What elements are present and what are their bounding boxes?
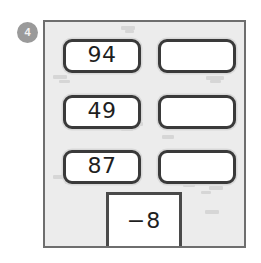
- paper-smudge: [205, 210, 219, 214]
- answer-box-row1-left[interactable]: 94: [63, 39, 141, 73]
- answer-box-row2-right[interactable]: [158, 95, 236, 129]
- answer-value-row1-left: 94: [88, 44, 117, 66]
- paper-smudge: [183, 184, 195, 187]
- paper-smudge: [201, 191, 211, 194]
- paper-smudge: [209, 186, 223, 190]
- total-box-value: −8: [127, 210, 161, 232]
- paper-smudge: [53, 75, 67, 79]
- answer-box-row3-right[interactable]: [158, 150, 236, 184]
- total-box[interactable]: −8: [106, 192, 182, 248]
- answer-value-row3-left: 87: [88, 155, 117, 177]
- answer-box-row3-left[interactable]: 87: [63, 150, 141, 184]
- question-number-label: 4: [24, 27, 30, 38]
- answer-box-row1-right[interactable]: [158, 39, 236, 73]
- paper-smudge: [125, 30, 134, 33]
- worksheet-frame: 94 49 87 −8: [43, 20, 246, 248]
- question-number-badge: 4: [17, 22, 38, 43]
- answer-value-row2-left: 49: [88, 100, 117, 122]
- answer-box-row2-left[interactable]: 49: [63, 95, 141, 129]
- paper-smudge: [162, 135, 174, 139]
- paper-smudge: [59, 80, 70, 83]
- paper-smudge: [210, 80, 221, 83]
